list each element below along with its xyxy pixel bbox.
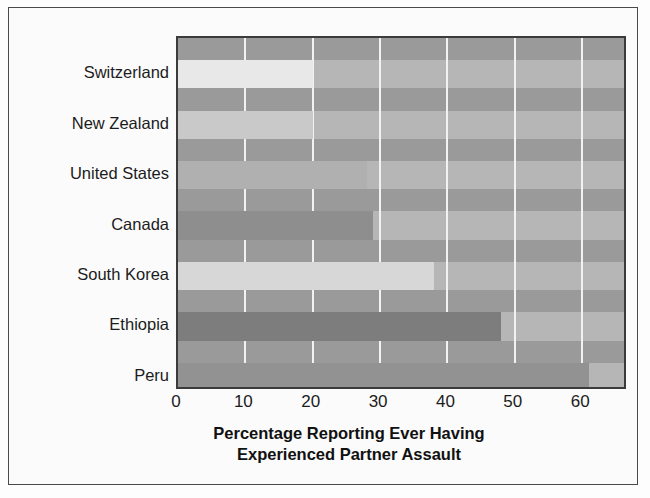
gridline-60 xyxy=(581,38,583,387)
x-tick-30: 30 xyxy=(369,392,388,412)
y-axis-label-canada: Canada xyxy=(14,215,169,233)
plot-inner xyxy=(178,38,624,387)
y-axis-label-ethiopia: Ethiopia xyxy=(14,315,169,333)
bar-canada xyxy=(178,211,373,239)
y-axis-label-south-korea: South Korea xyxy=(14,265,169,283)
x-axis-title: Percentage Reporting Ever Having Experie… xyxy=(69,423,629,465)
y-axis-labels: SwitzerlandNew ZealandUnited StatesCanad… xyxy=(9,36,169,389)
x-tick-10: 10 xyxy=(234,392,253,412)
bar-south-korea xyxy=(178,262,434,290)
x-axis-title-line2: Experienced Partner Assault xyxy=(69,444,629,465)
bar-ethiopia xyxy=(178,312,501,340)
plot-area xyxy=(176,36,626,389)
bar-switzerland xyxy=(178,60,313,88)
x-tick-60: 60 xyxy=(571,392,590,412)
figure-frame: SwitzerlandNew ZealandUnited StatesCanad… xyxy=(8,7,638,485)
y-axis-label-united-states: United States xyxy=(14,164,169,182)
y-axis-label-peru: Peru xyxy=(14,366,169,384)
x-tick-20: 20 xyxy=(301,392,320,412)
bar-new-zealand xyxy=(178,111,313,139)
x-axis-title-line1: Percentage Reporting Ever Having xyxy=(213,424,484,442)
bar-peru xyxy=(178,363,589,389)
x-axis-ticks: 0102030405060 xyxy=(176,392,626,416)
y-axis-label-switzerland: Switzerland xyxy=(14,63,169,81)
x-tick-0: 0 xyxy=(171,392,180,412)
gridline-50 xyxy=(514,38,516,387)
y-axis-label-new-zealand: New Zealand xyxy=(14,114,169,132)
x-tick-40: 40 xyxy=(436,392,455,412)
figure-container: SwitzerlandNew ZealandUnited StatesCanad… xyxy=(0,0,650,498)
row-band-gap xyxy=(178,387,624,389)
bar-united-states xyxy=(178,161,367,189)
x-tick-50: 50 xyxy=(503,392,522,412)
